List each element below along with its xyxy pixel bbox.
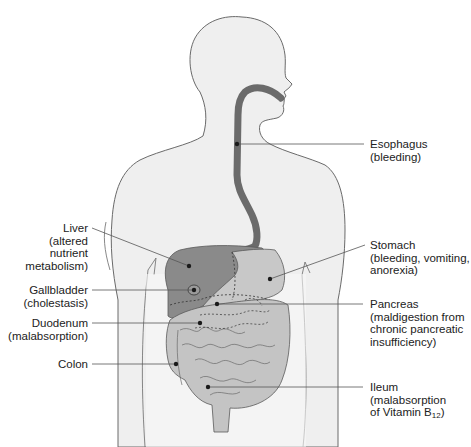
label-stomach: Stomach (bleeding, vomiting, anorexia) xyxy=(370,239,470,277)
label-stomach-detail-1: (bleeding, vomiting, xyxy=(370,252,470,265)
label-gallbladder-name: Gallbladder xyxy=(23,284,88,297)
label-ileum-detail-1: (malabsorption xyxy=(370,394,446,407)
label-esophagus: Esophagus (bleeding) xyxy=(370,138,428,163)
label-duodenum-name: Duodenum xyxy=(8,317,88,330)
label-liver-detail-3: metabolism) xyxy=(25,260,88,273)
label-pancreas-detail-2: chronic pancreatic xyxy=(370,323,465,336)
label-ileum: Ileum (malabsorption of Vitamin B12) xyxy=(370,381,446,423)
label-liver: Liver (altered nutrient metabolism) xyxy=(25,222,88,272)
label-duodenum-detail: (malabsorption) xyxy=(8,330,88,343)
marker-gallbladder xyxy=(192,288,196,292)
label-pancreas: Pancreas (maldigestion from chronic panc… xyxy=(370,298,465,348)
label-ileum-detail-2: of Vitamin B12) xyxy=(370,406,446,423)
left-arm-line xyxy=(104,222,110,270)
label-stomach-detail-2: anorexia) xyxy=(370,264,470,277)
label-liver-name: Liver xyxy=(25,222,88,235)
marker-liver xyxy=(187,264,191,268)
marker-stomach xyxy=(268,277,272,281)
label-stomach-name: Stomach xyxy=(370,239,470,252)
marker-ileum xyxy=(206,385,210,389)
label-liver-detail-2: nutrient xyxy=(25,247,88,260)
label-pancreas-name: Pancreas xyxy=(370,298,465,311)
label-pancreas-detail-3: insufficiency) xyxy=(370,336,465,349)
label-duodenum: Duodenum (malabsorption) xyxy=(8,317,88,342)
label-colon: Colon xyxy=(58,358,88,371)
marker-duodenum xyxy=(198,321,202,325)
marker-pancreas xyxy=(215,302,219,306)
label-gallbladder: Gallbladder (cholestasis) xyxy=(23,284,88,309)
label-pancreas-detail-1: (maldigestion from xyxy=(370,311,465,324)
label-liver-detail-1: (altered xyxy=(25,235,88,248)
label-ileum-name: Ileum xyxy=(370,381,446,394)
label-esophagus-detail: (bleeding) xyxy=(370,151,428,164)
label-colon-name: Colon xyxy=(58,358,88,371)
label-gallbladder-detail: (cholestasis) xyxy=(23,297,88,310)
marker-colon xyxy=(174,362,178,366)
marker-esophagus xyxy=(235,142,239,146)
label-esophagus-name: Esophagus xyxy=(370,138,428,151)
